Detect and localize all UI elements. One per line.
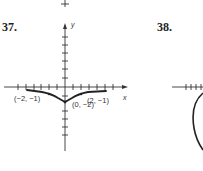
x-axis <box>4 84 125 90</box>
y-axis-label: y <box>70 21 75 29</box>
x-axis-label: x <box>122 94 127 101</box>
y-axis <box>62 26 68 151</box>
figure-38-axis <box>172 84 203 90</box>
point-label-neg2-neg1: (−2, −1) <box>14 94 41 103</box>
figure-37-graph: y x (−2, −1) (0, −2) (2, −1) <box>0 0 203 171</box>
point-2-neg1 <box>80 93 82 95</box>
stray-axis-fragment <box>61 0 69 7</box>
point-neg2-neg1 <box>48 93 50 95</box>
point-label-2-neg1: (2, −1) <box>87 96 109 105</box>
x-axis-arrow-icon <box>122 85 128 89</box>
y-axis-arrow-icon <box>63 23 67 29</box>
point-0-neg2 <box>64 101 67 104</box>
figure-38-circle-arc <box>193 93 203 150</box>
